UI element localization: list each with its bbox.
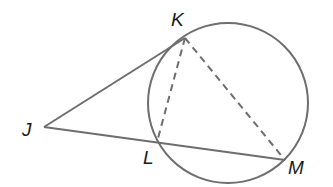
secant-segment-jm	[44, 127, 285, 160]
point-label-k: K	[171, 10, 184, 29]
point-label-l: L	[143, 148, 154, 167]
point-label-m: M	[288, 158, 304, 177]
geometry-figure	[0, 0, 333, 187]
point-label-j: J	[22, 120, 32, 139]
chord-km-dashed	[185, 38, 285, 160]
